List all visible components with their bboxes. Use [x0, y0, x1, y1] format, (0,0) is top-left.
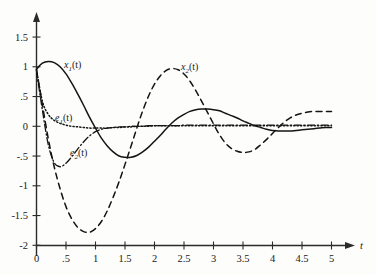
curve-label-x1: x1(t): [63, 59, 81, 73]
x-tick-label: 1: [93, 253, 98, 264]
y-axis: 1.51.50-.5-1-1.5-2: [11, 12, 40, 256]
y-tick-label: -1: [19, 180, 28, 191]
curve-label-x1-arg: (t): [72, 59, 81, 71]
x-tick-label: .5: [62, 253, 70, 264]
x-tick-label: 2: [152, 253, 157, 264]
y-tick-label: .5: [20, 91, 28, 102]
x-tick-label: 4.5: [295, 253, 308, 264]
curve-label-e1-arg: (t): [63, 112, 72, 124]
line-chart: 1.51.50-.5-1-1.5-2 0.511.522.533.544.55 …: [0, 0, 376, 275]
x-tick-label: 5: [329, 253, 334, 264]
y-tick-label: 1.5: [15, 32, 28, 43]
curve-label-e2: e2(t): [70, 147, 87, 161]
x-tick-label: 2.5: [177, 253, 190, 264]
x-axis-arrowhead: [345, 242, 355, 249]
y-axis-arrowhead: [33, 12, 40, 22]
x-tick-label: 1.5: [118, 253, 131, 264]
y-tick-labels: 1.51.50-.5-1-1.5-2: [11, 32, 28, 251]
x-tick-label: 4: [270, 253, 276, 264]
x-tick-label: 3: [211, 253, 216, 264]
curve-label-e2-arg: (t): [78, 147, 87, 159]
y-tick-label: 0: [23, 121, 28, 132]
x-tick-label: 3.5: [236, 253, 249, 264]
y-tick-label: 1: [23, 61, 28, 72]
x-tick-labels: 0.511.522.533.544.55: [34, 253, 334, 264]
curve-annotations: x1(t) x2(t) e1(t) e2(t): [55, 59, 198, 161]
x-tick-label: 0: [34, 253, 39, 264]
curve-x1: [37, 61, 332, 157]
curve-label-x2-arg: (t): [189, 61, 198, 73]
figure-canvas: 1.51.50-.5-1-1.5-2 0.511.522.533.544.55 …: [0, 0, 376, 275]
y-tick-label: -1.5: [11, 210, 28, 221]
x-axis: 0.511.522.533.544.55 t: [34, 240, 364, 264]
x-axis-name: t: [360, 240, 364, 251]
y-tick-label: -2: [19, 240, 28, 251]
y-tick-label: -.5: [17, 151, 28, 162]
